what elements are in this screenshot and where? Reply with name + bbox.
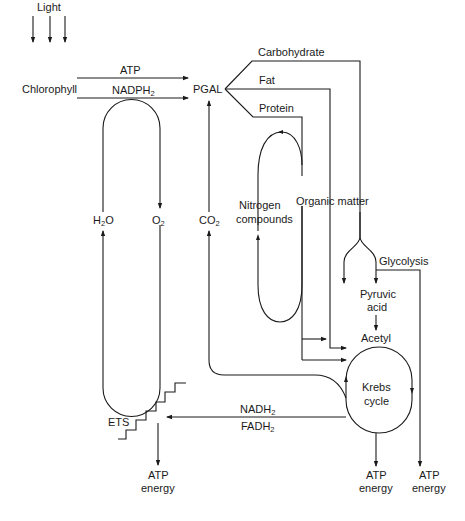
fadh-label: FADH2 [241, 420, 275, 434]
glycolysis-fork [344, 212, 376, 283]
h2o-label: H2O [93, 214, 114, 228]
ets-label: ETS [108, 416, 129, 428]
atp-energy-ets-2: energy [141, 482, 175, 494]
light-label: Light [37, 1, 61, 13]
krebs-label-2: cycle [364, 395, 389, 407]
pgal-label: PGAL [193, 83, 222, 95]
pyruvic-label-1: Pyruvic [360, 288, 397, 300]
organic-matter-label: Organic matter [296, 195, 369, 207]
light-arrows [33, 16, 65, 42]
nitrogen-loop [256, 130, 302, 322]
acetyl-label: Acetyl [361, 332, 391, 344]
fat-label: Fat [259, 74, 275, 86]
ets-staircase [118, 383, 186, 439]
pyruvic-label-2: acid [367, 301, 387, 313]
glycolysis-label: Glycolysis [379, 255, 429, 267]
water-oxygen-loop [103, 100, 160, 417]
o2-label: O2 [152, 214, 165, 228]
chlorophyll-label: Chlorophyll [22, 83, 77, 95]
energy-flow-diagram: Light Chlorophyll ATP NADPH2 PGAL Carboh… [0, 0, 465, 521]
atp-label: ATP [120, 64, 141, 76]
nitrogen-label-2: compounds [236, 213, 293, 225]
protein-label: Protein [259, 102, 294, 114]
co2-label: CO2 [199, 214, 220, 228]
nadph-label: NADPH2 [112, 84, 155, 98]
atp-energy-krebs-1: ATP [366, 469, 387, 481]
atp-energy-glyco-2: energy [412, 482, 446, 494]
nadh-label: NADH2 [240, 403, 275, 417]
krebs-label-1: Krebs [362, 381, 391, 393]
krebs-to-co2-line [209, 231, 346, 398]
atp-energy-glyco-1: ATP [419, 469, 440, 481]
nitrogen-label-1: Nitrogen [239, 199, 281, 211]
atp-energy-krebs-2: energy [359, 482, 393, 494]
atp-energy-ets-1: ATP [148, 469, 169, 481]
carbohydrate-label: Carbohydrate [258, 46, 325, 58]
